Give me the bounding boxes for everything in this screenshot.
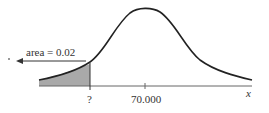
normal-curve	[39, 8, 252, 80]
area-annotation: area = 0.02	[26, 46, 75, 58]
x-axis-label: x	[245, 87, 251, 99]
normal-distribution-chart: area = 0.02 ? 70.000 x	[0, 0, 269, 113]
arrowhead-left-icon	[16, 58, 23, 64]
stray-dot	[8, 58, 10, 60]
mean-label: 70.000	[131, 93, 162, 105]
chart-svg: area = 0.02 ? 70.000 x	[0, 0, 269, 113]
cutoff-label: ?	[87, 93, 92, 105]
